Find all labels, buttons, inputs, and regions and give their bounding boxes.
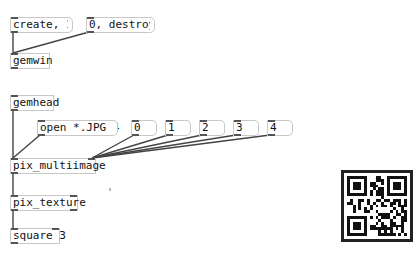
- outlet[interactable]: [132, 134, 139, 136]
- index-message-1[interactable]: 1: [165, 120, 186, 136]
- pix-multiimage-text: pix_multiimage: [13, 159, 106, 172]
- outlet[interactable]: [11, 31, 18, 33]
- outlet-right[interactable]: [70, 209, 77, 211]
- pix-texture-text: pix_texture: [13, 196, 86, 209]
- index-message-4[interactable]: 4: [267, 120, 288, 136]
- index-message-0[interactable]: 0: [131, 120, 152, 136]
- inlet[interactable]: [268, 120, 275, 122]
- inlet[interactable]: [132, 120, 139, 122]
- outlet[interactable]: [200, 134, 207, 136]
- inlet[interactable]: [11, 17, 18, 19]
- inlet-left[interactable]: [11, 228, 18, 230]
- create-message-text: create, 1: [13, 18, 73, 31]
- qr-code-image: [341, 170, 413, 242]
- square-object[interactable]: square 3: [10, 228, 60, 244]
- index-message-text: 3: [236, 121, 243, 134]
- index-message-text: 0: [134, 121, 141, 134]
- outlet[interactable]: [234, 134, 241, 136]
- pd-patch-canvas[interactable]: create, 1 0, destroy gemwin gemhead open…: [0, 0, 420, 256]
- pix-texture-object[interactable]: pix_texture: [10, 195, 78, 211]
- gemhead-object[interactable]: gemhead: [10, 95, 54, 111]
- open-message-box[interactable]: open *.JPG 4: [37, 120, 113, 136]
- outlet[interactable]: [11, 67, 18, 69]
- inlet[interactable]: [87, 17, 94, 19]
- inlet[interactable]: [38, 120, 45, 122]
- outlet[interactable]: [11, 109, 18, 111]
- outlet[interactable]: [166, 134, 173, 136]
- outlet[interactable]: [38, 134, 45, 136]
- inlet-left[interactable]: [11, 195, 18, 197]
- destroy-message-box[interactable]: 0, destroy: [86, 17, 150, 33]
- gemwin-object[interactable]: gemwin: [10, 53, 50, 69]
- open-message-text: open *.JPG 4: [40, 121, 119, 134]
- inlet[interactable]: [200, 120, 207, 122]
- inlet-right[interactable]: [70, 195, 77, 197]
- inlet[interactable]: [234, 120, 241, 122]
- inlet-left[interactable]: [11, 158, 18, 160]
- index-message-text: 1: [168, 121, 175, 134]
- inlet[interactable]: [11, 95, 18, 97]
- outlet[interactable]: [11, 172, 18, 174]
- destroy-message-text: 0, destroy: [89, 18, 155, 31]
- outlet[interactable]: [87, 31, 94, 33]
- index-message-3[interactable]: 3: [233, 120, 254, 136]
- index-message-text: 4: [270, 121, 277, 134]
- square-text: square 3: [13, 229, 66, 242]
- qr-code-modules: [347, 176, 407, 236]
- index-message-2[interactable]: 2: [199, 120, 220, 136]
- outlet[interactable]: [11, 242, 18, 244]
- inlet-right[interactable]: [88, 158, 95, 160]
- create-message-box[interactable]: create, 1: [10, 17, 68, 33]
- gemhead-text: gemhead: [13, 96, 59, 109]
- inlet[interactable]: [166, 120, 173, 122]
- inlet-right[interactable]: [52, 228, 59, 230]
- outlet-left[interactable]: [11, 209, 18, 211]
- index-message-text: 2: [202, 121, 209, 134]
- cursor-artifact: [109, 188, 111, 191]
- outlet[interactable]: [268, 134, 275, 136]
- gemwin-text: gemwin: [13, 54, 53, 67]
- inlet[interactable]: [11, 53, 18, 55]
- pix-multiimage-object[interactable]: pix_multiimage: [10, 158, 96, 174]
